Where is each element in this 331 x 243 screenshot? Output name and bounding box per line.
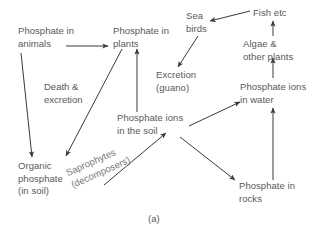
node-sea-birds: Sea birds: [186, 10, 207, 35]
node-phosphate-in-animals: Phosphate in animals: [18, 25, 74, 50]
node-phosphate-ions-in-the-soil: Phosphate ions in the soil: [117, 112, 183, 137]
node-organic-phosphate-in-soil: Organic phosphate (in soil): [18, 160, 63, 198]
arrow-sea-birds-to-excretion: [178, 36, 198, 67]
node-fish-etc: Fish etc: [253, 7, 287, 20]
node-phosphate-in-plants: Phosphate in plants: [113, 25, 169, 50]
edge-label-death-and-excretion: Death & excretion: [44, 81, 83, 106]
figure-caption: (a): [148, 213, 160, 224]
node-phosphate-ions-in-water: Phosphate ions in water: [240, 81, 306, 106]
node-excretion-guano: Excretion (guano): [156, 69, 196, 94]
arrow-soil-ions-to-water-ions: [189, 102, 240, 126]
rotated-label-saprophytes-decomposers: Saprophytes (decomposers): [64, 142, 132, 191]
arrow-animals-to-organic-phosphate: [21, 53, 32, 157]
node-algae-other-plants: Algae & other plants: [243, 38, 293, 63]
arrow-fish-to-sea-birds: [210, 11, 250, 21]
phosphorus-cycle-diagram: Phosphate in animalsPhosphate in plantsS…: [0, 0, 331, 243]
node-phosphate-in-rocks: Phosphate in rocks: [239, 180, 295, 205]
arrow-soil-ions-to-rocks: [180, 137, 235, 180]
